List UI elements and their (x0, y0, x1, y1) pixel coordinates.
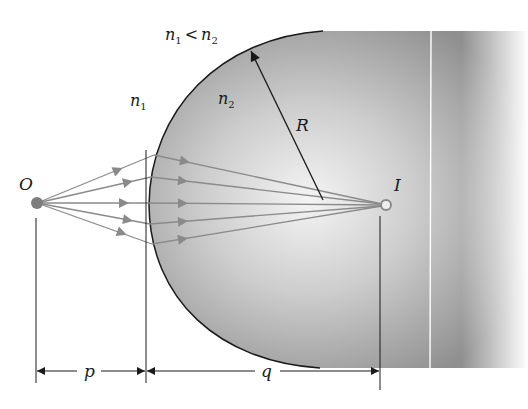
incident-ray-5 (37, 203, 152, 244)
condition-label: n1<n2 (165, 25, 218, 46)
radius-label: R (295, 115, 309, 135)
object-point (31, 197, 43, 209)
incident-ray-2 (37, 177, 151, 203)
object-distance-label: p (84, 361, 95, 381)
image-point (381, 200, 391, 210)
image-label: I (393, 175, 401, 195)
incident-rays (37, 155, 154, 244)
medium1-label: n1 (130, 91, 147, 112)
glass-rod-fade (380, 31, 528, 368)
incident-ray-1 (37, 155, 154, 203)
object-label: O (19, 174, 33, 194)
refraction-diagram: n1<n2 n1 n2 R O I p q (0, 0, 528, 409)
incident-ray-4 (37, 203, 150, 224)
image-distance-label: q (261, 361, 272, 381)
